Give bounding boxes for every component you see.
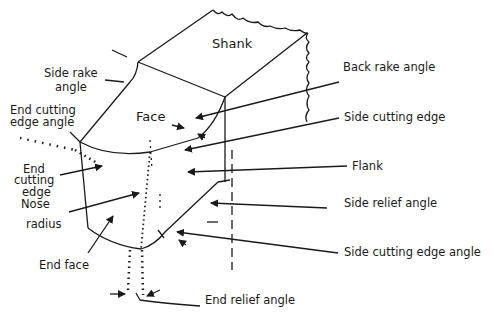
shank-break-side [306,33,309,122]
label-nose-radius-line1: Nose [21,198,50,211]
flank-bottom-edge [141,180,230,249]
cutting-tool-diagram: Shank Face Side rake angle End cutting e… [0,0,497,322]
label-shank: Shank [212,37,252,50]
label-end-cutting-edge-angle-line2: edge angle [10,116,74,129]
label-end-face: End face [39,259,89,272]
label-end-relief-angle: End relief angle [205,294,295,307]
label-side-rake-angle-line1: Side rake [44,67,98,80]
shank-top-edge [138,10,213,62]
end-cutting-edge [80,142,150,154]
label-side-relief-angle: Side relief angle [344,197,437,210]
shank-break-top [213,10,308,33]
label-side-cutting-edge: Side cutting edge [344,111,445,124]
face-back-edge [138,62,225,97]
label-back-rake-angle: Back rake angle [343,61,435,74]
front-vertical-edge [80,142,88,228]
label-face: Face [136,110,165,123]
label-side-rake-angle-line2: angle [55,81,87,94]
label-flank: Flank [352,160,383,173]
label-side-cutting-edge-angle: Side cutting edge angle [344,246,481,259]
end-face-bottom [88,228,141,249]
label-nose-radius-line2: radius [26,218,62,231]
